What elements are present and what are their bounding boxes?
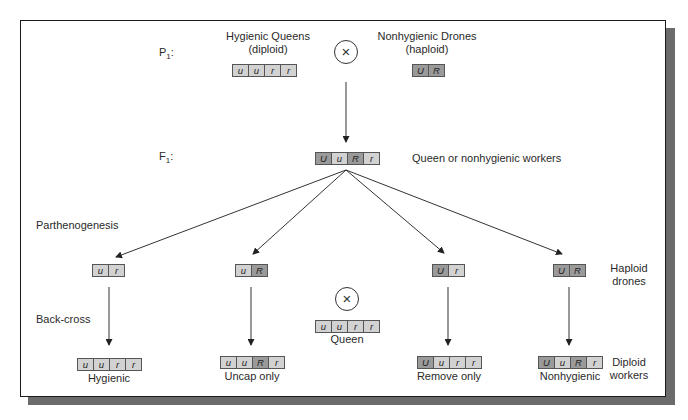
allele-cell: R xyxy=(571,357,587,368)
worker-genotype-hygienic: u u r r xyxy=(77,358,142,371)
allele-cell: R xyxy=(253,357,269,368)
allele-cell: r xyxy=(265,65,281,76)
allele-cell: r xyxy=(281,65,296,76)
allele-cell: R xyxy=(348,153,364,164)
drone-parent-ploidy: (haploid) xyxy=(372,43,482,56)
allele-cell: u xyxy=(332,321,348,332)
arrow-f1-to-drone-UR xyxy=(346,170,562,254)
allele-cell: U xyxy=(554,265,570,276)
drone-parent-genotype: U R xyxy=(412,64,445,77)
allele-cell: R xyxy=(570,265,585,276)
allele-cell: U xyxy=(316,153,332,164)
allele-cell: r xyxy=(449,265,464,276)
allele-cell: u xyxy=(249,65,265,76)
drone-genotype-uR: u R xyxy=(235,264,268,277)
allele-cell: r xyxy=(364,153,379,164)
allele-cell: R xyxy=(252,265,267,276)
allele-cell: R xyxy=(429,65,444,76)
worker-label-nonhygienic: Nonhygienic xyxy=(526,370,614,383)
queen-parent-title-text: Hygienic Queens xyxy=(213,30,323,43)
allele-cell: U xyxy=(433,265,449,276)
allele-cell: u xyxy=(237,357,253,368)
allele-cell: r xyxy=(348,321,364,332)
backcross-queen-genotype: u u r r xyxy=(315,320,380,333)
back-cross-label: Back-cross xyxy=(36,313,90,326)
allele-cell: u xyxy=(221,357,237,368)
allele-cell: u xyxy=(555,357,571,368)
drone-parent-title: Nonhygienic Drones (haploid) xyxy=(372,30,482,56)
p1-label: P1: xyxy=(159,46,174,63)
worker-label-uncap-only: Uncap only xyxy=(212,370,292,383)
allele-cell: U xyxy=(413,65,429,76)
allele-cell: r xyxy=(109,265,124,276)
worker-label-hygienic: Hygienic xyxy=(71,372,147,385)
worker-genotype-remove-only: U u r r xyxy=(417,356,482,369)
allele-cell: u xyxy=(78,359,94,370)
f1-label: F1: xyxy=(159,150,173,167)
cross-icon: × xyxy=(335,287,359,311)
haploid-drones-label-line2: drones xyxy=(604,275,654,288)
f1-genotype: U u R r xyxy=(315,152,380,165)
allele-cell: U xyxy=(539,357,555,368)
arrow-f1-to-drone-uR xyxy=(253,170,346,254)
allele-cell: u xyxy=(434,357,450,368)
arrow-f1-to-drone-ur xyxy=(116,170,346,257)
allele-cell: u xyxy=(94,359,110,370)
worker-genotype-nonhygienic: U u R r xyxy=(538,356,603,369)
allele-cell: r xyxy=(126,359,141,370)
allele-cell: u xyxy=(93,265,109,276)
worker-genotype-uncap-only: u u R r xyxy=(220,356,285,369)
backcross-queen-label: Queen xyxy=(315,333,379,346)
queen-parent-ploidy: (diploid) xyxy=(213,43,323,56)
f1-caption: Queen or nonhygienic workers xyxy=(412,152,561,165)
allele-cell: r xyxy=(450,357,466,368)
allele-cell: u xyxy=(236,265,252,276)
allele-cell: u xyxy=(316,321,332,332)
queen-parent-genotype: u u r r xyxy=(232,64,297,77)
allele-cell: r xyxy=(466,357,481,368)
drone-genotype-UR: U R xyxy=(553,264,586,277)
allele-cell: u xyxy=(332,153,348,164)
allele-cell: r xyxy=(110,359,126,370)
drone-genotype-Ur: U r xyxy=(432,264,465,277)
allele-cell: r xyxy=(269,357,284,368)
drone-parent-title-text: Nonhygienic Drones xyxy=(372,30,482,43)
haploid-drones-label-line1: Haploid xyxy=(604,262,654,275)
queen-parent-title: Hygienic Queens (diploid) xyxy=(213,30,323,56)
parthenogenesis-label: Parthenogenesis xyxy=(36,219,119,232)
arrow-f1-to-drone-Ur xyxy=(346,170,444,253)
allele-cell: r xyxy=(587,357,602,368)
allele-cell: u xyxy=(233,65,249,76)
cross-icon: × xyxy=(334,40,358,64)
allele-cell: U xyxy=(418,357,434,368)
haploid-drones-label: Haploid drones xyxy=(604,262,654,288)
diploid-workers-label-line1: Diploid xyxy=(604,356,654,369)
allele-cell: r xyxy=(364,321,379,332)
worker-label-remove-only: Remove only xyxy=(405,370,493,383)
drone-genotype-ur: u r xyxy=(92,264,125,277)
